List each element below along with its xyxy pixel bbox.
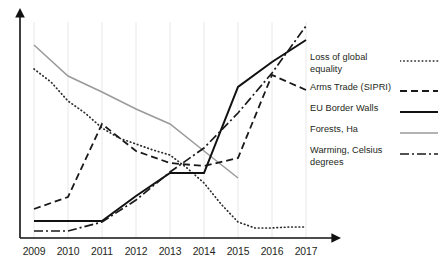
x-tick-2017: 2017: [289, 246, 323, 257]
legend-item-forests: Forests, Ha: [310, 124, 446, 138]
legend-item-eu-border-walls: EU Border Walls: [310, 103, 446, 117]
x-tick-2013: 2013: [153, 246, 187, 257]
solid-line-swatch: [400, 107, 440, 117]
x-tick-2015: 2015: [221, 246, 255, 257]
legend-label-arms-trade: Arms Trade (SIPRI): [310, 82, 396, 94]
dash-dot-line-swatch: [400, 149, 440, 159]
legend-label-eu-border-walls: EU Border Walls: [310, 103, 396, 115]
x-tick-2016: 2016: [255, 246, 289, 257]
x-tick-2011: 2011: [85, 246, 119, 257]
legend-label-warming-celsius: Warming, Celsius degrees: [310, 145, 396, 168]
x-tick-2014: 2014: [187, 246, 221, 257]
x-tick-2009: 2009: [17, 246, 51, 257]
dotted-line-swatch: [400, 56, 440, 66]
gridlines: [34, 22, 306, 238]
legend-label-loss-of-global-equality: Loss of global equality: [310, 52, 396, 75]
chart-legend: Loss of global equality Arms Trade (SIPR…: [310, 52, 446, 175]
chart-container: 2009 2010 2011 2012 2013 2014 2015 2016 …: [0, 0, 446, 271]
dashed-line-swatch: [400, 86, 440, 96]
legend-label-forests: Forests, Ha: [310, 124, 396, 136]
x-tick-2010: 2010: [51, 246, 85, 257]
x-tick-2012: 2012: [119, 246, 153, 257]
legend-item-loss-of-global-equality: Loss of global equality: [310, 52, 446, 75]
gray-solid-line-swatch: [400, 128, 440, 138]
legend-item-arms-trade: Arms Trade (SIPRI): [310, 82, 446, 96]
legend-item-warming-celsius: Warming, Celsius degrees: [310, 145, 446, 168]
